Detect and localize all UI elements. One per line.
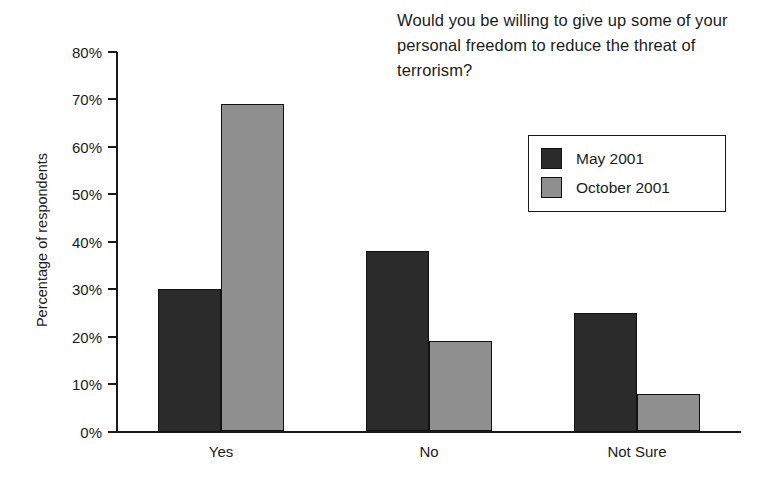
y-axis-tick-mark <box>108 51 117 53</box>
legend-item-label: October 2001 <box>576 179 670 197</box>
bar-not-sure-october-2001 <box>637 394 700 432</box>
y-axis-tick-mark <box>108 193 117 195</box>
y-axis-tick-label: 10% <box>46 376 102 393</box>
y-axis-tick-label: 70% <box>46 91 102 108</box>
chart-legend: May 2001October 2001 <box>528 135 726 212</box>
legend-item-label: May 2001 <box>576 150 644 168</box>
y-axis-tick-mark <box>108 431 117 433</box>
y-axis-tick-label: 40% <box>46 233 102 250</box>
y-axis-tick-label: 80% <box>46 44 102 61</box>
y-axis-tick-mark <box>108 336 117 338</box>
x-axis-tick-label: No <box>419 443 438 460</box>
x-axis-tick-label: Not Sure <box>607 443 666 460</box>
bar-no-october-2001 <box>429 341 492 431</box>
bar-chart: Would you be willing to give up some of … <box>0 0 763 490</box>
legend-swatch-icon <box>541 148 562 169</box>
y-axis-tick-mark <box>108 383 117 385</box>
x-axis-tick-label: Yes <box>209 443 233 460</box>
legend-item[interactable]: May 2001 <box>541 144 715 173</box>
legend-item[interactable]: October 2001 <box>541 173 715 202</box>
y-axis-tick-label: 50% <box>46 186 102 203</box>
bar-not-sure-may-2001 <box>574 313 637 432</box>
y-axis-tick-label: 0% <box>46 423 102 440</box>
bar-no-may-2001 <box>366 251 429 431</box>
y-axis-tick-mark <box>108 98 117 100</box>
y-axis-tick-label: 20% <box>46 328 102 345</box>
y-axis-tick-mark <box>108 288 117 290</box>
y-axis-tick-label: 30% <box>46 281 102 298</box>
y-axis-tick-mark <box>108 146 117 148</box>
y-axis-tick-label: 60% <box>46 138 102 155</box>
bar-yes-may-2001 <box>158 289 221 431</box>
plot-area: 80%70%60%50%40%30%20%10%0%YesNoNot Sure <box>0 0 763 490</box>
bar-yes-october-2001 <box>221 104 284 431</box>
y-axis-tick-mark <box>108 241 117 243</box>
legend-swatch-icon <box>541 177 562 198</box>
